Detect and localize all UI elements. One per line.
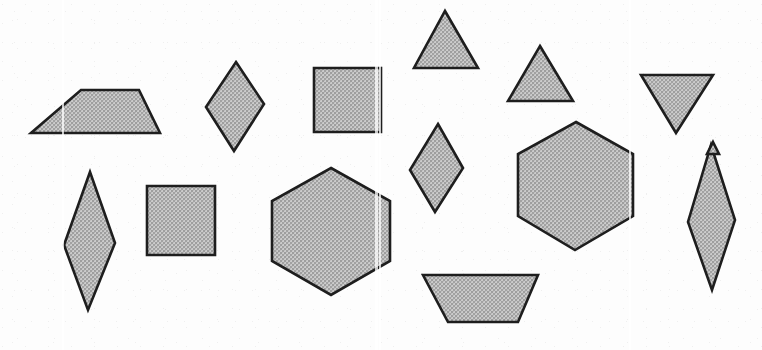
scanned-figure-page <box>0 0 762 350</box>
shape-square <box>145 184 217 257</box>
shape-rhombus <box>62 170 117 312</box>
shape-outline-hexagon-center <box>272 168 390 295</box>
shape-outline-rhombus-tall-right <box>688 145 735 290</box>
shape-outline-rhombus-tall-left <box>64 172 115 310</box>
shape-trapezoid <box>29 88 160 135</box>
shape-outline-rhombus-center-small <box>410 124 463 212</box>
shape-outline-triangle-small-partial-right <box>707 142 719 154</box>
shape-triangle <box>412 9 480 70</box>
shape-triangle <box>639 73 715 135</box>
shape-outline-square-lower-left <box>147 186 215 255</box>
shape-rhombus <box>408 122 465 214</box>
shape-triangle <box>706 142 720 156</box>
shape-outline-trapezoid-upright-left <box>31 90 160 133</box>
shape-trapezoid <box>421 273 540 324</box>
shape-triangle <box>506 44 575 103</box>
shape-outline-rhombus-upper-left <box>206 62 264 151</box>
shape-rhombus <box>686 143 737 292</box>
shape-outline-square-upper <box>314 68 381 132</box>
shape-outline-triangle-inverted-right <box>641 75 713 133</box>
shape-outline-trapezoid-inverted-bottom <box>423 275 538 322</box>
shape-rhombus <box>204 60 266 153</box>
shape-hexagon <box>516 120 637 252</box>
shape-square <box>312 66 383 134</box>
shape-outline-triangle-upper-right <box>508 46 573 101</box>
shape-outline-triangle-top-center <box>414 11 478 68</box>
shape-outline-hexagon-right <box>518 122 633 250</box>
shape-hexagon <box>270 166 394 297</box>
